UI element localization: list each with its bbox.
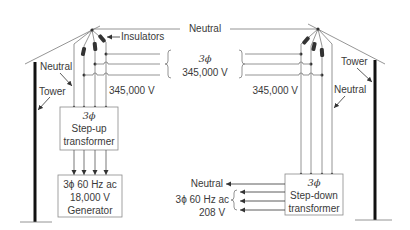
right-tower-label: Tower xyxy=(341,56,368,67)
left-apex-node xyxy=(90,28,93,31)
right-voltage-label: 345,000 V xyxy=(252,85,298,96)
step-down-title: Step-down xyxy=(290,190,338,201)
generator: 3ϕ 60 Hz ac 18,000 V Generator xyxy=(58,175,122,217)
insulators-label: Insulators xyxy=(121,31,164,42)
left-neutral-arrow xyxy=(60,73,72,86)
generator-voltage: 18,000 V xyxy=(70,192,110,203)
insulator-icon xyxy=(93,42,98,51)
left-phase-wire-b xyxy=(92,30,95,107)
left-tower-label: Tower xyxy=(39,86,66,97)
output-phase-label: 3ϕ 60 Hz ac xyxy=(176,194,229,205)
left-neutral-wire xyxy=(74,30,92,107)
right-apex-node xyxy=(316,27,319,30)
left-crossarm xyxy=(25,26,100,64)
left-neutral-label: Neutral xyxy=(40,61,72,72)
line-phase-label: 3ϕ xyxy=(198,53,211,64)
neutral-top-label: Neutral xyxy=(189,23,221,34)
left-tower-arrow xyxy=(38,97,50,110)
left-phase-wire-a xyxy=(84,30,92,107)
right-tower-arrow xyxy=(357,68,372,82)
right-neutral-label: Neutral xyxy=(334,84,366,95)
output-voltage-label: 208 V xyxy=(199,207,225,218)
step-up-title: Step-up xyxy=(71,123,106,134)
diagram-canvas: Neutral xyxy=(0,0,410,230)
step-up-phase: 3ϕ xyxy=(82,110,95,121)
left-brace xyxy=(165,50,171,78)
right-brace xyxy=(239,50,245,78)
output-brace xyxy=(231,190,237,210)
right-neutral-arrow xyxy=(334,96,345,108)
output-neutral-label: Neutral xyxy=(191,178,223,189)
step-down-transformer: 3ϕ Step-down transformer xyxy=(285,174,343,215)
line-voltage-label: 345,000 V xyxy=(182,67,228,78)
insulator-icon xyxy=(320,48,325,57)
step-up-subtitle: transformer xyxy=(63,136,115,147)
right-insulators xyxy=(300,27,334,175)
left-insulators xyxy=(73,28,108,108)
step-down-subtitle: transformer xyxy=(288,203,340,214)
generator-spec: 3ϕ 60 Hz ac xyxy=(63,179,116,190)
output-connections xyxy=(226,184,285,210)
insulator-icon xyxy=(98,34,107,43)
power-transmission-diagram: Neutral xyxy=(0,0,410,230)
step-up-transformer: 3ϕ Step-up transformer xyxy=(60,107,118,150)
right-wire-bundle xyxy=(301,29,332,174)
left-wire-bundle xyxy=(74,30,106,107)
generator-connections xyxy=(74,150,106,175)
insulator-icon xyxy=(81,47,87,57)
step-down-phase: 3ϕ xyxy=(307,177,320,188)
right-phase-wire-a xyxy=(301,29,318,174)
left-voltage-label: 345,000 V xyxy=(109,85,155,96)
generator-title: Generator xyxy=(67,205,113,216)
